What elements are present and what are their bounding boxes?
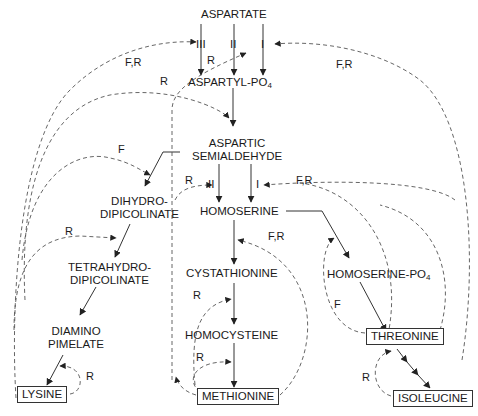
label-r-methionine-self: R	[196, 351, 204, 364]
node-lysine: LYSINE	[17, 386, 67, 403]
reg-isoleucine-td	[375, 351, 391, 396]
arrow-thr-to-ile-2	[407, 362, 418, 375]
label-hd-I: I	[256, 178, 259, 191]
label-ak-III: III	[196, 38, 206, 51]
arrow-hs-to-hsp	[286, 211, 349, 258]
node-dap-line1: DIAMINO	[48, 325, 104, 338]
node-isoleucine: ISOLEUCINE	[393, 390, 473, 407]
reg-threonine-hdI	[264, 182, 455, 200]
arrow-dhdp-to-thdp	[115, 224, 130, 257]
node-dap-line2: PIMELATE	[48, 338, 104, 351]
reg-methionine-cyst	[238, 240, 308, 395]
reg-threonine-hdI-inner	[300, 183, 392, 335]
reg-methionine-hcys	[194, 299, 231, 385]
arrow-thr-to-ile-3	[418, 375, 430, 388]
node-thdp-line1: TETRAHYDRO-	[68, 261, 151, 274]
node-aspartyl-po4-text: ASPARTYL-PO	[188, 76, 267, 88]
label-fr-cystathionine: F,R	[268, 230, 285, 243]
label-r-homocysteine: R	[193, 289, 201, 302]
node-asa-line1: ASPARTIC	[192, 137, 282, 150]
node-diaminopimelate: DIAMINOPIMELATE	[48, 325, 104, 351]
label-fr-threonine: F,R	[336, 58, 353, 71]
reg-threonine-hsk	[324, 238, 365, 333]
reg-threonine-akI	[275, 43, 469, 360]
node-aspartic-semialdehyde: ASPARTICSEMIALDEHYDE	[192, 137, 282, 163]
label-r-isoleucine: R	[362, 371, 370, 384]
label-r-methionine: R	[160, 75, 168, 88]
node-aspartyl-po4: ASPARTYL-PO4	[188, 76, 272, 92]
reg-methionine-hdII	[175, 185, 212, 200]
node-homoserine-po4: HOMOSERINE-PO4	[327, 268, 431, 284]
node-aspartate: ASPARTATE	[201, 8, 267, 21]
label-r-akII: R	[207, 54, 215, 67]
arrow-thdp-to-dap	[80, 287, 96, 315]
node-asa-line2: SEMIALDEHYDE	[192, 150, 282, 163]
node-homocysteine: HOMOCYSTEINE	[185, 329, 278, 342]
node-tetrahydrodipicolinate: TETRAHYDRO-DIPICOLINATE	[68, 261, 151, 287]
label-r-lysine-self: R	[86, 370, 94, 383]
label-r-tetrahydro: R	[65, 225, 73, 238]
subscript: 4	[267, 81, 271, 90]
subscript: 4	[426, 273, 430, 282]
label-f-lysine-dhdp: F	[118, 143, 125, 156]
node-dhdp-line1: DIHYDRO-	[100, 195, 179, 208]
label-r-hdII: R	[185, 174, 193, 187]
node-homoserine: HOMOSERINE	[200, 205, 279, 218]
arrow-thr-to-ile-1	[397, 349, 407, 362]
label-ak-II: II	[230, 38, 236, 51]
arrow-dap-to-lysine	[47, 355, 63, 385]
node-dhdp-line2: DIPICOLINATE	[100, 208, 179, 221]
arrow-asa-to-dhdp	[145, 152, 180, 186]
node-dihydrodipicolinate: DIHYDRO-DIPICOLINATE	[100, 195, 179, 221]
label-fr-hdI: F,R	[296, 174, 313, 187]
node-hsp-text: HOMOSERINE-PO	[327, 268, 426, 280]
node-thdp-line2: DIPICOLINATE	[68, 274, 151, 287]
node-methionine: METHIONINE	[197, 388, 279, 405]
label-f-threonine-hsk: F	[334, 298, 341, 311]
node-threonine: THREONINE	[366, 328, 444, 345]
node-cystathionine: CYSTATHIONINE	[186, 267, 278, 280]
label-fr-lysine: F,R	[125, 56, 142, 69]
label-ak-I: I	[261, 38, 264, 51]
arrow-hsp-to-thr	[360, 282, 386, 331]
label-hd-II: II	[208, 178, 214, 191]
